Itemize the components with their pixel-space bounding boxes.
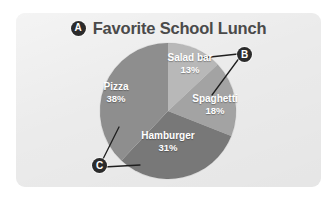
chart-title: Favorite School Lunch [93, 19, 267, 38]
callout-badge-c: C [92, 158, 107, 173]
callout-badge-b: B [237, 47, 252, 62]
pie-chart-figure: Salad bar 13% Spaghetti 18% Pizza 38% Ha… [0, 0, 334, 198]
callout-badge-a: A [71, 21, 86, 36]
chart-title-row: A Favorite School Lunch [16, 13, 321, 43]
pie-slices [100, 43, 236, 179]
